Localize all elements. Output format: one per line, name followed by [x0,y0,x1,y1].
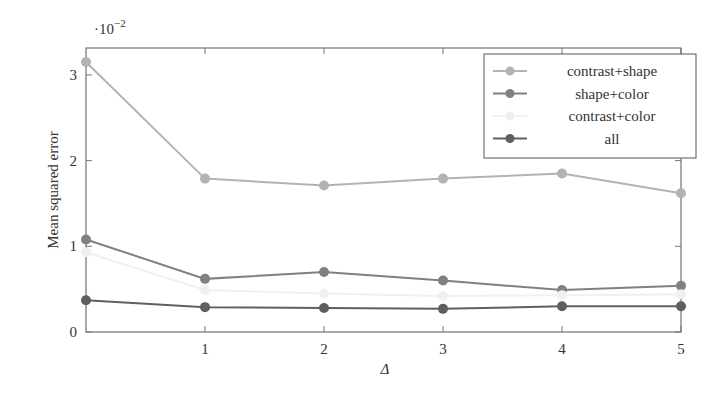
legend-label: shape+color [575,86,648,102]
data-point-marker [319,267,329,277]
data-point-marker [319,303,329,313]
data-point-marker [438,291,448,301]
legend-marker-icon [506,89,515,98]
series-shape-color [81,234,686,295]
y-axis-label: Mean squared error [45,131,61,248]
data-point-marker [557,168,567,178]
legend-label: contrast+shape [567,63,657,79]
y-tick-label: 1 [70,238,78,254]
data-point-marker [81,234,91,244]
legend-marker-icon [506,67,515,76]
data-point-marker [200,274,210,284]
legend-label: contrast+color [569,108,656,124]
legend-marker-icon [506,112,515,121]
data-point-marker [438,304,448,314]
data-point-marker [200,285,210,295]
data-point-marker [438,276,448,286]
data-point-marker [81,295,91,305]
data-point-marker [81,247,91,257]
data-point-marker [676,188,686,198]
data-point-marker [676,281,686,291]
data-point-marker [200,302,210,312]
series-line [86,239,681,290]
line-chart: ·10−2 12345 0123 Δ Mean squared error co… [0,0,723,394]
data-point-marker [200,174,210,184]
data-point-marker [676,301,686,311]
data-point-marker [319,288,329,298]
legend-marker-icon [506,134,515,143]
data-point-marker [676,289,686,299]
legend-label: all [605,131,620,147]
series-line [86,300,681,309]
x-tick-label: 5 [677,341,685,357]
y-tick-label: 3 [70,67,78,83]
x-tick-label: 4 [558,341,566,357]
y-tick-label: 0 [70,324,78,340]
data-point-marker [557,301,567,311]
x-tick-label: 1 [201,341,209,357]
data-point-marker [557,290,567,300]
legend: contrast+shapeshape+colorcontrast+colora… [484,54,696,158]
series-all [81,295,686,314]
data-point-marker [438,174,448,184]
data-point-marker [81,57,91,67]
y-tick-label: 2 [70,153,78,169]
x-axis-label: Δ [380,361,390,377]
y-multiplier: ·10−2 [94,17,126,37]
x-tick-label: 3 [439,341,447,357]
x-tick-label: 2 [320,341,328,357]
series-contrast-color [81,247,686,301]
data-point-marker [319,180,329,190]
